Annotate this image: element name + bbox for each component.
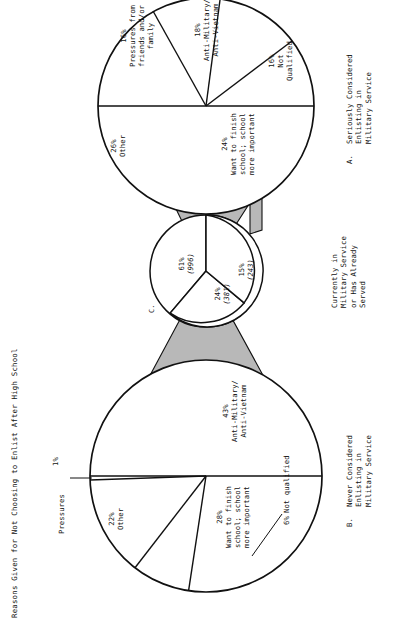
center-slice-24-count: (381) <box>223 274 232 314</box>
pie-a-slice-other-label: Other <box>119 111 128 181</box>
center-slice-15-count: (243) <box>247 250 256 290</box>
pie-a-slice-anti-military-label: Anti-Military/ Anti-Vietnam <box>203 0 221 78</box>
pie-a-slice-finish-school-label: Want to finish school; school more impor… <box>230 90 256 198</box>
pie-a-slice-not-qualified-label: Not Qualified <box>277 24 295 98</box>
key-a-text: Seriously Considered Enlisting in Milita… <box>345 54 373 144</box>
figure-page: Reasons Given for Not Choosing to Enlist… <box>0 0 406 626</box>
pie-b-slice-not-qualified-pct: 6% <box>283 516 292 525</box>
pie-b-slice-not-qualified-label: Not qualified <box>283 455 292 513</box>
rotated-figure-canvas: Reasons Given for Not Choosing to Enlist… <box>0 0 406 626</box>
pie-b-slice-pressures-label: Pressures <box>58 494 67 534</box>
key-b-letter: B. <box>345 518 354 527</box>
page-title: Reasons Given for Not Choosing to Enlist… <box>10 348 19 618</box>
center-slice-61-count: (996) <box>187 242 196 286</box>
pie-b-slice-other-label: Other <box>117 484 126 554</box>
key-b-text: Never Considered Enlisting in Military S… <box>345 435 373 507</box>
pie-a-slice-pressures-label: Pressures from friends and/or family <box>129 0 155 86</box>
key-a-letter: A. <box>345 155 354 164</box>
c-marker: C. <box>148 305 156 313</box>
key-c-text: Currently in Military Service or Has Alr… <box>330 236 368 308</box>
pie-b-slice-finish-school-label: Want to finish school; school more impor… <box>225 463 251 571</box>
pie-b-slice-anti-military-label: Anti-Military/ Anti-Vietnam <box>231 364 249 458</box>
pie-b-slice-pressures-pct: 1% <box>52 457 61 466</box>
